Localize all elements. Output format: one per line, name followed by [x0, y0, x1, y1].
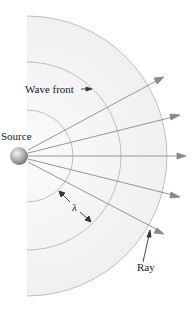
wave-front-label: Wave front	[25, 83, 74, 95]
ray-pointer	[143, 230, 151, 262]
source-label: Source	[1, 130, 32, 142]
ray-pointer-arrowhead	[147, 230, 151, 237]
wave-diagram: Source Wave front λ Ray	[0, 0, 195, 309]
ray-1-arrowhead	[154, 77, 164, 84]
wavelength-label: λ	[71, 201, 77, 213]
ray-2-arrowhead	[170, 114, 180, 120]
ray-4-arrowhead	[170, 192, 180, 198]
ray-3-arrowhead	[177, 153, 186, 159]
source-sphere	[10, 147, 28, 165]
ray-label: Ray	[137, 261, 155, 273]
